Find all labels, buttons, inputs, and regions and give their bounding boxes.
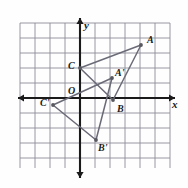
triangle-a-prime-b-prime-c-prime [53,78,112,140]
vertex-dot [110,76,114,80]
label-B: B [117,104,124,114]
vertex-dot [51,103,55,107]
label-A-prime: A' [115,68,124,78]
label-C-prime: C' [40,98,49,108]
label-B-prime: B' [98,143,107,153]
label-origin: O [68,86,75,96]
label-y-axis: y [84,20,89,31]
vertex-dot [139,43,143,47]
coordinate-plane [0,0,188,188]
triangles-group [53,45,141,140]
label-C: C [68,61,75,71]
label-x-axis: x [172,99,178,110]
figure-canvas: ABCA'B'C'Oxy [0,0,188,188]
vertex-dot [111,98,115,102]
vertex-dot [78,66,82,70]
label-A: A [147,35,154,45]
